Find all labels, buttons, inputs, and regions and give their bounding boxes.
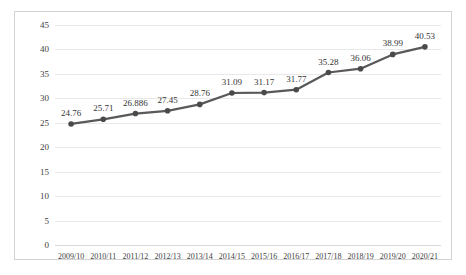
- data-point-label: 31.09: [222, 78, 242, 87]
- gridline: [55, 245, 441, 246]
- data-point-marker: [293, 87, 299, 93]
- data-point-marker: [326, 70, 332, 76]
- data-point-marker: [197, 102, 203, 108]
- x-axis-tick-label: 2020/21: [412, 252, 438, 261]
- y-axis-tick-label: 25: [40, 118, 49, 127]
- y-axis-tick-label: 15: [40, 167, 49, 176]
- data-point-marker: [422, 44, 428, 50]
- data-point-marker: [390, 52, 396, 58]
- data-point-label: 27.45: [157, 96, 177, 105]
- data-point-label: 40.53: [415, 32, 435, 41]
- data-point-marker: [261, 90, 267, 96]
- x-axis-tick-label: 2011/12: [122, 252, 148, 261]
- data-point-label: 35.28: [318, 58, 338, 67]
- line-chart-figure: 051015202530354045 24.7625.7126.88627.45…: [0, 0, 466, 275]
- x-axis-tick-label: 2012/13: [154, 252, 180, 261]
- data-point-marker: [100, 117, 106, 123]
- y-axis-tick-label: 40: [40, 45, 49, 54]
- x-axis-tick-label: 2016/17: [283, 252, 309, 261]
- data-point-label: 24.76: [61, 109, 81, 118]
- x-axis-tick-label: 2015/16: [251, 252, 277, 261]
- y-axis-tick-label: 10: [40, 192, 49, 201]
- series-polyline: [71, 47, 425, 124]
- y-axis-tick-label: 45: [40, 21, 49, 30]
- x-axis-tick-label: 2010/11: [90, 252, 116, 261]
- y-axis-tick-label: 20: [40, 143, 49, 152]
- data-point-marker: [165, 108, 171, 114]
- y-axis-tick-label: 0: [45, 241, 50, 250]
- data-point-label: 26.886: [123, 99, 148, 108]
- x-axis-tick-label: 2013/14: [187, 252, 213, 261]
- data-point-label: 31.77: [286, 75, 306, 84]
- x-axis-tick-label: 2018/19: [347, 252, 373, 261]
- y-axis-tick-label: 30: [40, 94, 49, 103]
- y-axis-tick-label: 5: [45, 216, 50, 225]
- chart-plot-frame: 051015202530354045 24.7625.7126.88627.45…: [14, 11, 452, 260]
- data-point-marker: [68, 121, 74, 127]
- x-axis-tick-label: 2014/15: [219, 252, 245, 261]
- data-point-label: 25.71: [93, 104, 113, 113]
- data-point-label: 28.76: [190, 89, 210, 98]
- chart-plot-area: 051015202530354045 24.7625.7126.88627.45…: [55, 25, 441, 245]
- x-axis-tick-label: 2019/20: [380, 252, 406, 261]
- x-axis-tick-label: 2009/10: [58, 252, 84, 261]
- y-axis-tick-label: 35: [40, 69, 49, 78]
- data-point-label: 38.99: [383, 39, 403, 48]
- data-series-line: [55, 25, 441, 245]
- data-point-label: 31.17: [254, 78, 274, 87]
- data-point-marker: [229, 90, 235, 96]
- x-axis-tick-label: 2017/18: [315, 252, 341, 261]
- data-point-label: 36.06: [350, 54, 370, 63]
- data-point-marker: [133, 111, 139, 117]
- data-point-marker: [358, 66, 364, 72]
